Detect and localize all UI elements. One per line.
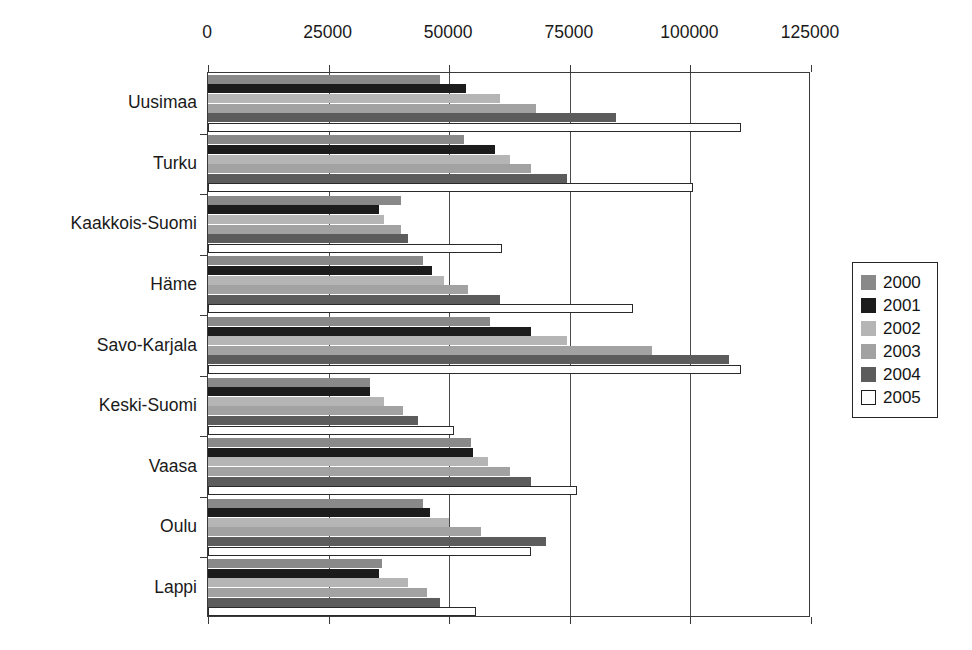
x-tick-mark <box>570 617 571 624</box>
bar-kaakkois-suomi-2000 <box>208 196 401 205</box>
y-tick-mark <box>200 497 208 498</box>
bar-lappi-2005 <box>208 607 476 616</box>
bar-uusimaa-2001 <box>208 84 466 93</box>
y-label-kaakkois-suomi: Kaakkois-Suomi <box>71 213 197 234</box>
bar-uusimaa-2002 <box>208 94 500 103</box>
bar-turku-2005 <box>208 183 693 192</box>
bar-h-me-2005 <box>208 304 633 313</box>
bar-savo-karjala-2004 <box>208 355 729 364</box>
legend-item-2000[interactable]: 2000 <box>861 271 931 294</box>
legend-item-2004[interactable]: 2004 <box>861 363 931 386</box>
bar-uusimaa-2004 <box>208 113 616 122</box>
bar-group <box>208 255 809 316</box>
bar-group <box>208 557 809 618</box>
bar-h-me-2000 <box>208 256 423 265</box>
y-tick-mark <box>200 315 208 316</box>
y-tick-mark <box>200 557 208 558</box>
legend-swatch-icon-2005 <box>861 390 876 405</box>
bar-h-me-2002 <box>208 276 444 285</box>
bar-keski-suomi-2000 <box>208 378 370 387</box>
bar-oulu-2004 <box>208 537 546 546</box>
x-tick-mark <box>449 65 450 72</box>
x-tick-mark <box>449 617 450 624</box>
bar-oulu-2003 <box>208 527 481 536</box>
x-tick-label: 0 <box>202 22 212 43</box>
x-tick-mark <box>329 617 330 624</box>
bar-keski-suomi-2001 <box>208 387 370 396</box>
bar-group <box>208 73 809 134</box>
bar-kaakkois-suomi-2005 <box>208 244 502 253</box>
bar-savo-karjala-2001 <box>208 327 531 336</box>
chart-legend: 200020012002200320042005 <box>852 262 938 418</box>
bar-keski-suomi-2003 <box>208 406 403 415</box>
y-tick-mark <box>200 376 208 377</box>
x-tick-mark <box>329 65 330 72</box>
bar-group <box>208 194 809 255</box>
plot-area <box>207 72 810 617</box>
bar-keski-suomi-2005 <box>208 426 454 435</box>
x-tick-mark <box>208 617 209 624</box>
bar-vaasa-2001 <box>208 448 473 457</box>
bar-savo-karjala-2002 <box>208 336 567 345</box>
legend-swatch-icon-2001 <box>861 298 876 313</box>
bar-group <box>208 436 809 497</box>
x-tick-mark <box>811 65 812 72</box>
y-label-lappi: Lappi <box>154 576 197 597</box>
bar-turku-2001 <box>208 145 495 154</box>
bar-savo-karjala-2005 <box>208 365 741 374</box>
legend-label-2003: 2003 <box>883 343 921 360</box>
bar-vaasa-2005 <box>208 486 577 495</box>
bar-lappi-2004 <box>208 598 440 607</box>
bar-turku-2004 <box>208 174 567 183</box>
bar-keski-suomi-2004 <box>208 416 418 425</box>
chart-canvas: 0250005000075000100000125000 UusimaaTurk… <box>0 0 972 650</box>
bar-uusimaa-2005 <box>208 123 741 132</box>
bar-vaasa-2000 <box>208 438 471 447</box>
y-label-vaasa: Vaasa <box>149 455 197 476</box>
legend-item-2005[interactable]: 2005 <box>861 386 931 409</box>
bar-turku-2003 <box>208 164 531 173</box>
legend-swatch-icon-2002 <box>861 321 876 336</box>
legend-label-2001: 2001 <box>883 297 921 314</box>
bar-lappi-2003 <box>208 588 427 597</box>
bar-oulu-2000 <box>208 499 423 508</box>
bar-lappi-2001 <box>208 569 379 578</box>
bar-group <box>208 376 809 437</box>
bar-h-me-2003 <box>208 285 468 294</box>
bar-kaakkois-suomi-2001 <box>208 205 379 214</box>
y-tick-mark <box>200 194 208 195</box>
legend-label-2005: 2005 <box>883 389 921 406</box>
y-tick-mark <box>200 134 208 135</box>
legend-swatch-icon-2000 <box>861 275 876 290</box>
y-label-savo-karjala: Savo-Karjala <box>97 334 197 355</box>
legend-item-2003[interactable]: 2003 <box>861 340 931 363</box>
bar-kaakkois-suomi-2004 <box>208 234 408 243</box>
bar-group <box>208 497 809 558</box>
bar-oulu-2001 <box>208 508 430 517</box>
y-label-oulu: Oulu <box>160 516 197 537</box>
bar-lappi-2002 <box>208 578 408 587</box>
legend-label-2002: 2002 <box>883 320 921 337</box>
bar-oulu-2005 <box>208 547 531 556</box>
x-tick-label: 50000 <box>424 22 473 43</box>
x-tick-mark <box>570 65 571 72</box>
bar-h-me-2001 <box>208 266 432 275</box>
y-label-h-me: Häme <box>150 273 197 294</box>
bar-oulu-2002 <box>208 518 449 527</box>
bar-turku-2002 <box>208 155 510 164</box>
bar-vaasa-2002 <box>208 457 488 466</box>
y-tick-mark <box>200 436 208 437</box>
legend-item-2002[interactable]: 2002 <box>861 317 931 340</box>
bar-lappi-2000 <box>208 559 382 568</box>
legend-item-2001[interactable]: 2001 <box>861 294 931 317</box>
bar-kaakkois-suomi-2002 <box>208 215 384 224</box>
legend-swatch-icon-2004 <box>861 367 876 382</box>
y-label-uusimaa: Uusimaa <box>128 92 197 113</box>
legend-swatch-icon-2003 <box>861 344 876 359</box>
bar-vaasa-2004 <box>208 477 531 486</box>
x-tick-mark <box>690 65 691 72</box>
x-tick-mark <box>208 65 209 72</box>
bar-savo-karjala-2000 <box>208 317 490 326</box>
bar-group <box>208 315 809 376</box>
legend-label-2004: 2004 <box>883 366 921 383</box>
